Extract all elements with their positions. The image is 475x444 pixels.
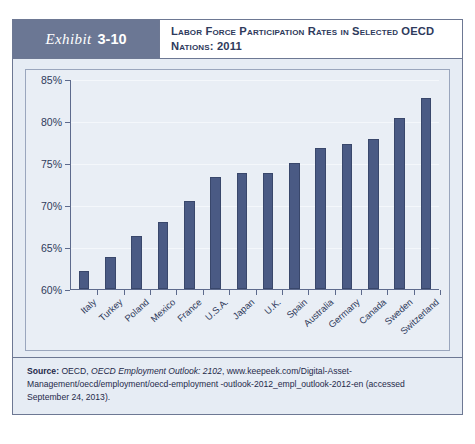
chart-area: 60%65%70%75%80%85% ItalyTurkeyPolandMexi… <box>13 59 462 359</box>
source-note: Source: OECD, OECD Employment Outlook: 2… <box>13 357 462 414</box>
bar <box>368 139 379 289</box>
exhibit-number: 3-10 <box>98 31 127 47</box>
bar <box>394 118 405 289</box>
x-tick <box>282 290 283 295</box>
x-tick <box>97 290 98 295</box>
y-tick <box>65 80 70 81</box>
x-tick <box>256 290 257 295</box>
y-tick <box>65 206 70 207</box>
exhibit-container: Exhibit 3-10 Labor Force Participation R… <box>12 19 463 415</box>
x-tick <box>308 290 309 295</box>
exhibit-title-box: Labor Force Participation Rates in Selec… <box>160 20 462 58</box>
y-tick <box>65 122 70 123</box>
y-tick-label: 60% <box>41 284 62 296</box>
x-tick <box>176 290 177 295</box>
bars-layer <box>71 80 439 289</box>
bar <box>263 173 274 289</box>
x-tick <box>414 290 415 295</box>
x-tick <box>229 290 230 295</box>
x-tick <box>361 290 362 295</box>
source-publisher: OECD, <box>61 366 88 376</box>
bar <box>131 236 142 289</box>
bar <box>105 257 116 289</box>
bar <box>342 144 353 289</box>
bar-chart-plot: 60%65%70%75%80%85% ItalyTurkeyPolandMexi… <box>70 80 439 290</box>
y-tick-label: 70% <box>41 200 62 212</box>
y-tick-label: 75% <box>41 158 62 170</box>
bar <box>158 222 169 289</box>
y-tick-label: 80% <box>41 116 62 128</box>
x-tick <box>124 290 125 295</box>
x-axis-line <box>70 289 439 290</box>
page-title: Labor Force Participation Rates in Selec… <box>171 24 462 54</box>
x-tick <box>150 290 151 295</box>
bar <box>79 271 90 289</box>
x-tick <box>387 290 388 295</box>
source-work-title: OECD Employment Outlook: 2102 <box>91 366 222 376</box>
bar <box>237 173 248 289</box>
x-tick <box>335 290 336 295</box>
exhibit-label: Exhibit <box>45 31 91 48</box>
x-tick <box>440 290 441 295</box>
bar <box>421 98 432 289</box>
exhibit-header: Exhibit 3-10 Labor Force Participation R… <box>13 20 462 59</box>
bar <box>210 177 221 289</box>
x-tick-label: Italy <box>76 297 99 319</box>
plot-frame: 60%65%70%75%80%85% ItalyTurkeyPolandMexi… <box>25 69 450 351</box>
bar <box>184 201 195 289</box>
bar <box>315 148 326 289</box>
y-tick <box>65 248 70 249</box>
y-tick-label: 65% <box>41 242 62 254</box>
exhibit-number-tab: Exhibit 3-10 <box>13 20 160 58</box>
y-tick <box>65 164 70 165</box>
bar <box>289 163 300 289</box>
y-tick-label: 85% <box>41 74 62 86</box>
x-tick <box>203 290 204 295</box>
source-prefix: Source: <box>27 366 59 376</box>
y-tick <box>65 290 70 291</box>
